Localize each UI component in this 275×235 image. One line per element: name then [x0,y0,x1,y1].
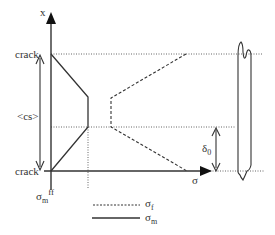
sigma-m-ff-subscript: m [42,196,48,205]
fiber-sketch-icon [238,42,251,180]
sigma-f-curve [111,54,187,171]
sigma-m-curve [51,54,88,171]
crack-bottom-label: crack [15,166,39,177]
sigma-m-ff-superscript: ff [48,187,54,197]
sigma-axis-label: σ [192,175,198,186]
legend-sigma-m-label: σm [145,212,157,227]
delta-subscript: 0 [207,148,211,157]
x-axis-label: x [40,7,46,18]
sigma-axis-arrow-icon [200,166,212,176]
delta-zero-label: δ0 [202,143,211,158]
crack-spacing-label: <cs> [17,111,39,122]
sigma-m-ff-label: σmff [36,187,54,206]
x-axis-arrow-icon [46,12,56,24]
crack-top-label: crack [15,49,39,60]
